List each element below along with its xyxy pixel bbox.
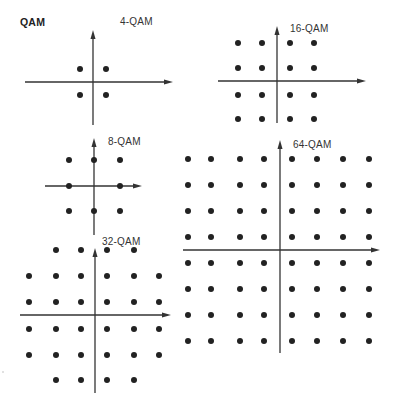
- constellation-point: [289, 338, 295, 344]
- constellation-point: [259, 65, 265, 71]
- constellation-point: [66, 183, 72, 189]
- constellation-point: [366, 234, 372, 240]
- constellation-point: [53, 247, 59, 253]
- arrow-right-icon: [162, 313, 171, 318]
- arrow-right-icon: [133, 184, 142, 189]
- constellation-point: [289, 312, 295, 318]
- constellation-point: [237, 156, 243, 162]
- constellation-point: [366, 208, 372, 214]
- constellation-point: [53, 299, 59, 305]
- constellation-point: [156, 326, 162, 332]
- constellation-point: [261, 312, 267, 318]
- constellation-point: [314, 156, 320, 162]
- constellation-point: [185, 338, 191, 344]
- constellation-point: [340, 286, 346, 292]
- constellation-point: [156, 352, 162, 358]
- arrow-up-icon: [93, 248, 98, 257]
- constellation-point: [104, 247, 110, 253]
- constellation-point: [117, 183, 123, 189]
- constellation-point: [185, 260, 191, 266]
- constellation-64-qam: [183, 140, 380, 353]
- constellation-point: [103, 92, 109, 98]
- constellation-point: [78, 299, 84, 305]
- constellation-point: [66, 208, 72, 214]
- constellation-4-qam: [25, 30, 173, 125]
- constellation-point: [104, 273, 110, 279]
- constellation-point: [117, 157, 123, 163]
- constellation-point: [259, 116, 265, 122]
- constellation-point: [311, 92, 317, 98]
- constellation-point: [261, 208, 267, 214]
- constellation-point: [185, 156, 191, 162]
- constellation-point: [311, 65, 317, 71]
- constellation-point: [289, 208, 295, 214]
- constellation-point: [208, 286, 214, 292]
- constellation-point: [66, 157, 72, 163]
- arrow-up-icon: [91, 30, 96, 39]
- constellation-point: [311, 116, 317, 122]
- constellation-point: [289, 182, 295, 188]
- constellation-point: [259, 92, 265, 98]
- constellation-point: [314, 338, 320, 344]
- constellation-point: [314, 260, 320, 266]
- constellation-plots: [0, 0, 397, 406]
- constellation-point: [340, 208, 346, 214]
- constellation-point: [366, 156, 372, 162]
- constellation-point: [237, 208, 243, 214]
- constellation-point: [208, 156, 214, 162]
- constellation-point: [131, 247, 137, 253]
- constellation-point: [366, 338, 372, 344]
- constellation-point: [287, 92, 293, 98]
- constellation-point: [78, 247, 84, 253]
- qam-constellation-figure: QAM 4-QAM 16-QAM 8-QAM 32-QAM 64-QAM: [0, 0, 397, 406]
- constellation-point: [26, 352, 32, 358]
- constellation-point: [289, 234, 295, 240]
- constellation-point: [185, 312, 191, 318]
- constellation-point: [340, 312, 346, 318]
- constellation-point: [366, 286, 372, 292]
- constellation-point: [131, 352, 137, 358]
- constellation-point: [26, 326, 32, 332]
- constellation-point: [237, 312, 243, 318]
- constellation-point: [261, 182, 267, 188]
- constellation-point: [261, 286, 267, 292]
- constellation-point: [261, 338, 267, 344]
- constellation-point: [235, 92, 241, 98]
- constellation-point: [366, 182, 372, 188]
- constellation-point: [287, 65, 293, 71]
- constellation-point: [314, 182, 320, 188]
- constellation-point: [340, 182, 346, 188]
- constellation-point: [287, 116, 293, 122]
- constellation-point: [208, 338, 214, 344]
- constellation-point: [208, 234, 214, 240]
- constellation-point: [78, 273, 84, 279]
- constellation-point: [261, 234, 267, 240]
- constellation-point: [91, 157, 97, 163]
- constellation-point: [237, 260, 243, 266]
- constellation-point: [104, 326, 110, 332]
- constellation-point: [185, 208, 191, 214]
- constellation-point: [131, 273, 137, 279]
- constellation-point: [235, 40, 241, 46]
- constellation-point: [185, 234, 191, 240]
- constellation-point: [77, 92, 83, 98]
- constellation-point: [53, 352, 59, 358]
- constellation-point: [78, 326, 84, 332]
- constellation-point: [340, 260, 346, 266]
- arrow-right-icon: [164, 80, 173, 85]
- constellation-point: [261, 156, 267, 162]
- constellation-point: [78, 377, 84, 383]
- constellation-point: [366, 260, 372, 266]
- constellation-point: [366, 312, 372, 318]
- constellation-point: [340, 234, 346, 240]
- constellation-point: [117, 208, 123, 214]
- constellation-point: [237, 286, 243, 292]
- constellation-point: [289, 260, 295, 266]
- constellation-32-qam: [20, 247, 171, 393]
- constellation-point: [104, 299, 110, 305]
- constellation-point: [314, 312, 320, 318]
- constellation-point: [314, 234, 320, 240]
- arrow-up-icon: [278, 140, 283, 149]
- arrow-up-icon: [275, 26, 280, 35]
- constellation-point: [53, 326, 59, 332]
